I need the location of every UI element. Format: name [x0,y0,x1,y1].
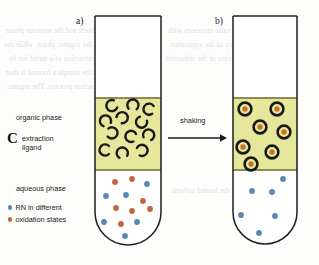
bleed-text-line: and the complex formed is then [5,68,104,77]
legend-item-rn-blue: RN in different [8,203,62,212]
rn-dot-blue [101,219,107,225]
rn-dot-blue [238,212,244,218]
rn-dot-blue [280,176,286,182]
panel-label-b: b) [215,16,223,26]
rn-dot-orange [129,176,135,182]
rn-dot-blue [272,213,278,219]
extraction-ligand-label-line2: ligand [22,144,41,153]
rn-dot-orange [140,198,146,204]
rn-dot-orange [129,208,135,214]
rn-dot-orange [113,205,119,211]
rn-dot-orange [147,206,153,212]
rn-dot-blue [134,219,140,225]
rn-dot-blue [122,233,128,239]
bleed-text-line: in the organic phase, while the [4,40,100,49]
rn-dot-blue [269,189,275,195]
bleed-text-line: extraction process. The organic [7,82,106,91]
arrow-head [220,134,227,142]
rn-dot-blue [123,192,129,198]
extraction-figure: the solvent and the aqueous phase in the… [0,0,319,265]
shaking-label: shaking [180,116,205,125]
test-tube-b [233,16,297,247]
legend-item-rn-orange: oxidation states [8,215,66,224]
legend-label: RN in different [15,203,62,212]
blue-dot-icon [8,205,12,209]
rn-dot-blue [249,188,255,194]
extraction-ligand-icon: C [7,130,18,147]
rn-dot-orange [112,179,118,185]
test-tube-a [95,16,161,247]
rn-dot-blue [103,193,109,199]
legend-label: oxidation states [15,215,66,224]
rn-dot-blue [256,230,262,236]
aqueous-phase-label: aqueous phase [16,185,66,194]
rn-dot-blue [144,181,150,187]
panel-label-a: a) [76,16,83,26]
rn-dot-orange [118,221,124,227]
orange-dot-icon [8,217,12,221]
organic-phase-label: organic phase [16,114,62,123]
